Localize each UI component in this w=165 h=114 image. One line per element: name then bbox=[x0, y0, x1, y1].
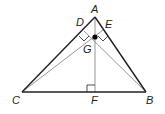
triangle-altitudes-diagram: A D E G C F B bbox=[0, 0, 165, 114]
label-E: E bbox=[105, 18, 113, 30]
label-D: D bbox=[76, 16, 84, 28]
altitude-CE bbox=[22, 30, 103, 92]
label-G: G bbox=[83, 43, 92, 55]
altitude-BD bbox=[84, 31, 146, 92]
label-C: C bbox=[12, 94, 20, 106]
label-F: F bbox=[91, 94, 99, 106]
right-angle-mark-D bbox=[79, 36, 89, 41]
point-G bbox=[92, 34, 97, 39]
label-B: B bbox=[146, 94, 153, 106]
label-A: A bbox=[90, 3, 98, 15]
side-AB bbox=[95, 17, 146, 92]
right-angle-mark-F bbox=[87, 85, 95, 92]
right-angle-mark-E bbox=[98, 36, 108, 41]
